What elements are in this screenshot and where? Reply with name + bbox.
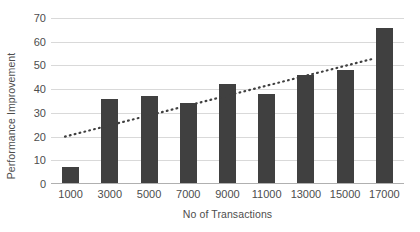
plot-area — [51, 18, 404, 184]
y-tick-label: 60 — [34, 36, 46, 48]
x-tick-label: 7000 — [169, 188, 208, 204]
x-tick-label: 13000 — [286, 188, 325, 204]
bar — [376, 28, 393, 185]
y-tick-label: 70 — [34, 12, 46, 24]
bar-slot — [51, 18, 90, 184]
x-tick-label: 15000 — [326, 188, 365, 204]
bar-slot — [90, 18, 129, 184]
bar-slot — [326, 18, 365, 184]
x-tick-label: 3000 — [90, 188, 129, 204]
y-axis-title: Performance Improvement — [0, 0, 22, 232]
bar — [180, 103, 197, 184]
bar-slot — [129, 18, 168, 184]
bar-slot — [286, 18, 325, 184]
x-axis-title: No of Transactions — [51, 208, 404, 220]
x-axis-tick-labels: 1000300050007000900011000130001500017000 — [51, 188, 404, 204]
bar-slot — [208, 18, 247, 184]
y-tick-label: 30 — [34, 107, 46, 119]
y-tick-label: 50 — [34, 59, 46, 71]
y-tick-label: 40 — [34, 83, 46, 95]
y-tick-label: 10 — [34, 154, 46, 166]
bar — [101, 99, 118, 184]
y-axis-tick-labels: 010203040506070 — [22, 18, 46, 184]
bar — [258, 94, 275, 184]
bar-slot — [247, 18, 286, 184]
x-tick-label: 11000 — [247, 188, 286, 204]
y-tick-label: 20 — [34, 131, 46, 143]
x-tick-label: 17000 — [365, 188, 404, 204]
bar — [297, 75, 314, 184]
bar — [62, 167, 79, 184]
bars — [51, 18, 404, 184]
bar — [337, 70, 354, 184]
x-axis-line — [51, 183, 404, 184]
bar-slot — [169, 18, 208, 184]
performance-improvement-bar-chart: Performance Improvement 010203040506070 … — [0, 0, 420, 232]
bar — [219, 84, 236, 184]
x-tick-label: 9000 — [208, 188, 247, 204]
x-tick-label: 1000 — [51, 188, 90, 204]
bar — [141, 96, 158, 184]
x-tick-label: 5000 — [129, 188, 168, 204]
bar-slot — [365, 18, 404, 184]
y-tick-label: 0 — [40, 178, 46, 190]
